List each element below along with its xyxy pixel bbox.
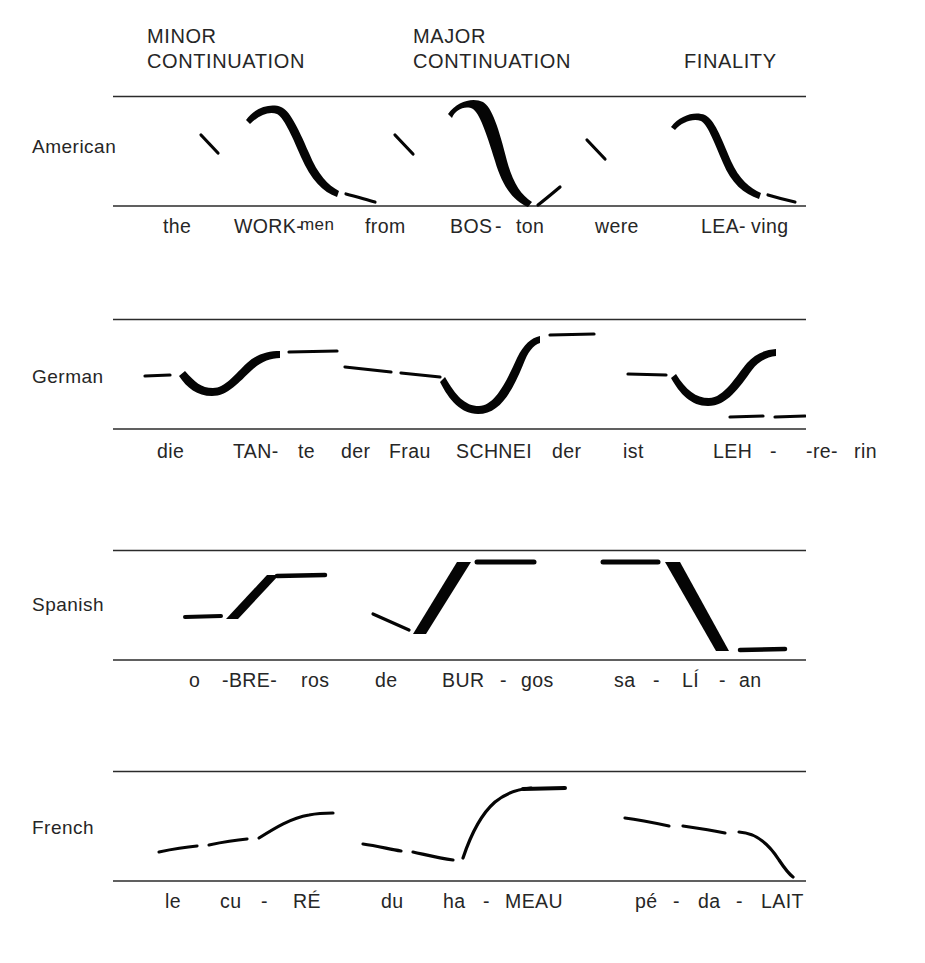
contour-spanish-o	[185, 616, 221, 617]
syllable: LAIT	[761, 890, 804, 913]
syllable-strip-spanish: o -BRE- ros de BUR - gos sa - LÍ - an	[113, 669, 806, 703]
contour-french-du	[363, 844, 401, 851]
contour-german-tan	[179, 351, 280, 396]
contour-german-der2	[550, 334, 594, 335]
syllable: die	[157, 440, 184, 463]
contour-american-the	[201, 135, 218, 153]
contour-canvas-american	[113, 95, 806, 208]
syllable: ha	[443, 890, 466, 913]
syllable: SCHNEI	[456, 440, 532, 463]
syllable: from	[365, 215, 406, 238]
syllable: da	[698, 890, 721, 913]
contour-french-da	[683, 826, 725, 833]
column-header-major-continuation: MAJOR CONTINUATION	[413, 24, 571, 74]
contour-german-te	[289, 351, 337, 352]
contour-canvas-french	[113, 770, 806, 883]
syllable: LÍ	[682, 669, 699, 692]
contour-french-lait-fall	[739, 832, 793, 877]
pitch-stave-american	[113, 95, 806, 208]
syllable: -	[770, 440, 777, 463]
syllable: cu	[220, 890, 241, 913]
pitch-stave-german	[113, 318, 806, 431]
syllable: gos	[521, 669, 554, 692]
syllable: -	[736, 890, 743, 913]
contour-french-le	[159, 846, 197, 852]
column-header-minor-continuation: MINOR CONTINUATION	[147, 24, 305, 74]
contour-spanish-bre-rise	[226, 575, 279, 619]
syllable: Frau	[389, 440, 431, 463]
syllable: rin	[854, 440, 877, 463]
contour-american-were	[587, 140, 605, 159]
contour-canvas-german	[113, 318, 806, 431]
contour-spanish-li-fall	[665, 562, 729, 651]
syllable: ving	[751, 215, 788, 238]
syllable: -	[483, 890, 490, 913]
contour-spanish-an	[740, 649, 785, 650]
contour-american-leaving	[671, 114, 761, 200]
row-label-french: French	[32, 817, 94, 839]
syllable: RÉ	[293, 890, 321, 913]
contour-german-der	[345, 367, 391, 372]
contour-spanish-ros	[277, 575, 325, 576]
syllable: -	[673, 890, 680, 913]
syllable: BUR	[442, 669, 484, 692]
contour-spanish-bur-rise	[413, 562, 471, 634]
contour-french-pe	[625, 818, 669, 826]
syllable: sa	[614, 669, 635, 692]
contour-american-workmen	[246, 106, 339, 197]
syllable: WORK-	[234, 215, 303, 238]
pitch-stave-spanish	[113, 549, 806, 662]
contour-spanish-de	[373, 614, 409, 630]
syllable: TAN-	[233, 440, 279, 463]
syllable: de	[375, 669, 398, 692]
contour-french-ha	[413, 852, 453, 860]
syllable: ton	[516, 215, 544, 238]
contour-german-leh	[671, 349, 776, 406]
syllable: men	[300, 215, 334, 235]
syllable: -BRE-	[222, 669, 277, 692]
contour-french-re-rise	[259, 813, 333, 838]
syllable: du	[381, 890, 404, 913]
syllable: LEH	[713, 440, 752, 463]
syllable: MEAU	[505, 890, 563, 913]
syllable: ist	[623, 440, 644, 463]
syllable: te	[298, 440, 315, 463]
contour-canvas-spanish	[113, 549, 806, 662]
syllable: were	[595, 215, 639, 238]
contour-french-meau-level	[523, 788, 565, 789]
syllable: ros	[301, 669, 329, 692]
syllable: -re-	[806, 440, 838, 463]
contour-german-schnei	[440, 336, 540, 414]
contour-american-boston	[448, 100, 532, 207]
contour-french-cu	[209, 839, 247, 845]
syllable: le	[165, 890, 181, 913]
syllable: -	[653, 669, 660, 692]
contour-german-re-low	[730, 416, 763, 417]
contour-american-from	[395, 135, 413, 154]
contour-french-meau-rise	[463, 788, 531, 858]
row-label-german: German	[32, 366, 104, 388]
pitch-stave-french	[113, 770, 806, 883]
contour-american-ving-tail	[768, 195, 795, 202]
row-label-american: American	[32, 136, 116, 158]
syllable-strip-american: the WORK- men from BOS - ton were LEA- v…	[113, 215, 806, 249]
syllable: -	[719, 669, 726, 692]
syllable: BOS	[450, 215, 492, 238]
syllable: -	[500, 669, 507, 692]
syllable: -	[495, 215, 502, 238]
contour-american-men-tail	[346, 194, 375, 202]
column-header-finality: FINALITY	[684, 49, 777, 74]
syllable: der	[552, 440, 581, 463]
contour-german-rin-low	[775, 416, 805, 417]
intonation-figure: MINOR CONTINUATION MAJOR CONTINUATION FI…	[0, 0, 925, 963]
syllable: -	[261, 890, 268, 913]
contour-german-frau	[401, 373, 440, 377]
syllable-strip-french: le cu - RÉ du ha - MEAU pé - da - LAIT	[113, 890, 806, 924]
contour-american-ton-hook	[538, 187, 560, 205]
syllable: an	[739, 669, 762, 692]
syllable: the	[163, 215, 191, 238]
contour-german-ist	[628, 374, 666, 375]
contour-german-die	[145, 375, 170, 376]
row-label-spanish: Spanish	[32, 594, 104, 616]
syllable: LEA-	[701, 215, 746, 238]
